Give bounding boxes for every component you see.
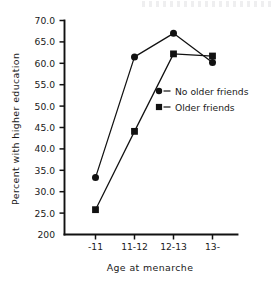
- legend-label: No older friends: [175, 86, 249, 97]
- x-tick-label: 13-: [205, 241, 220, 252]
- data-point-circle: [170, 30, 177, 37]
- x-tick-label: 11-12: [121, 241, 148, 252]
- y-tick-label: 45.0: [35, 122, 56, 133]
- data-point-square: [131, 128, 138, 135]
- y-tick-label: 25.0: [35, 208, 56, 219]
- y-axis-title: Percent with higher education: [10, 53, 21, 205]
- chart-figure: Percent with higher education 70.0 65.0 …: [0, 0, 274, 284]
- data-point-circle: [92, 174, 99, 181]
- y-axis-ticks: 70.0 65.0 60.0 55.0 50.0 45.0 40.0 35.0 …: [35, 15, 65, 240]
- legend-square-marker: [156, 104, 162, 110]
- data-point-circle: [209, 59, 216, 66]
- y-tick-label: 40.0: [35, 143, 56, 154]
- x-axis-ticks: -11 11-12 12-13 13-: [88, 235, 220, 253]
- y-tick-label: 55.0: [35, 79, 56, 90]
- legend-label: Older friends: [175, 102, 235, 113]
- data-point-circle: [131, 53, 138, 60]
- data-series-layer: [92, 30, 216, 213]
- data-point-square: [209, 53, 216, 60]
- series-line: [96, 54, 213, 210]
- y-tick-label: 200: [37, 229, 55, 240]
- y-tick-label: 35.0: [35, 165, 56, 176]
- legend-circle-marker: [156, 88, 162, 94]
- page-header-scan-artifact: [142, 1, 272, 7]
- y-tick-label: 60.0: [35, 58, 56, 69]
- x-tick-label: 12-13: [160, 241, 187, 252]
- legend-entry-no-older-friends: No older friends: [156, 86, 249, 97]
- y-tick-label: 30.0: [35, 186, 56, 197]
- data-point-square: [92, 206, 99, 213]
- chart-legend: No older friends Older friends: [156, 86, 249, 113]
- x-axis-title: Age at menarche: [107, 262, 194, 273]
- line-chart-canvas: Percent with higher education 70.0 65.0 …: [0, 0, 274, 284]
- data-point-square: [170, 50, 177, 57]
- y-tick-label: 70.0: [35, 15, 56, 26]
- x-tick-label: -11: [88, 241, 103, 252]
- legend-entry-older-friends: Older friends: [156, 102, 235, 113]
- y-tick-label: 50.0: [35, 101, 56, 112]
- y-tick-label: 65.0: [35, 36, 56, 47]
